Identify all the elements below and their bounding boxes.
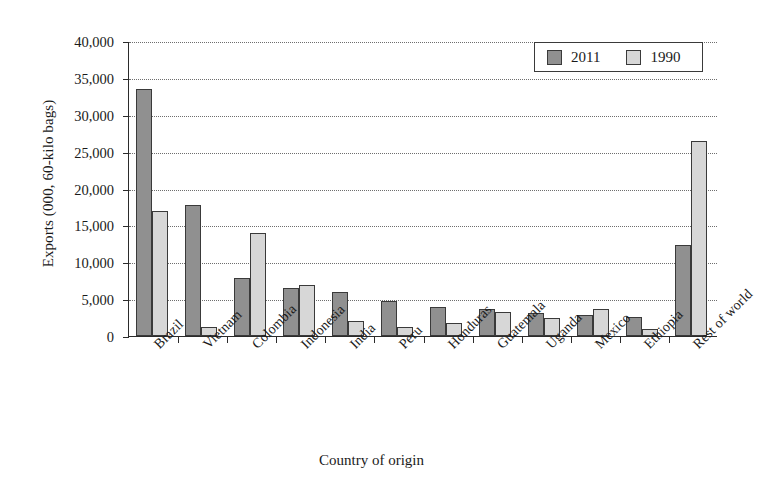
- chart-legend: 2011 1990: [534, 42, 703, 72]
- y-tick-label: 15,000: [54, 220, 114, 232]
- x-axis-category-labels: BrazilVietnamColombiaIndonesiaIndiaPeruH…: [128, 337, 717, 447]
- legend-item-1990: 1990: [626, 43, 680, 71]
- y-tick-label: 40,000: [54, 36, 114, 48]
- legend-swatch-2011: [547, 50, 562, 65]
- bar-2011-honduras: [430, 307, 446, 337]
- y-tick-label: 10,000: [54, 257, 114, 269]
- legend-label-1990: 1990: [650, 49, 680, 66]
- bar-2011-brazil: [136, 89, 152, 336]
- plot-area: [128, 42, 717, 337]
- y-tick-label: 35,000: [54, 73, 114, 85]
- legend-item-2011: 2011: [547, 43, 600, 71]
- legend-label-2011: 2011: [571, 49, 600, 66]
- bar-2011-peru: [381, 301, 397, 336]
- bar-series-container: [129, 42, 717, 336]
- bar-2011-vietnam: [185, 205, 201, 336]
- y-tick-label: 20,000: [54, 184, 114, 196]
- y-tick-label: 0: [54, 331, 114, 343]
- bar-1990-rest-of-world: [691, 141, 707, 336]
- legend-swatch-1990: [626, 50, 641, 65]
- bar-1990-colombia: [250, 233, 266, 336]
- y-tick-label: 5,000: [54, 294, 114, 306]
- y-axis-tick-labels: 05,00010,00015,00020,00025,00030,00035,0…: [48, 0, 114, 500]
- bar-1990-brazil: [152, 211, 168, 336]
- y-tick-label: 25,000: [54, 147, 114, 159]
- y-tick-label: 30,000: [54, 110, 114, 122]
- x-axis-title: Country of origin: [0, 452, 743, 469]
